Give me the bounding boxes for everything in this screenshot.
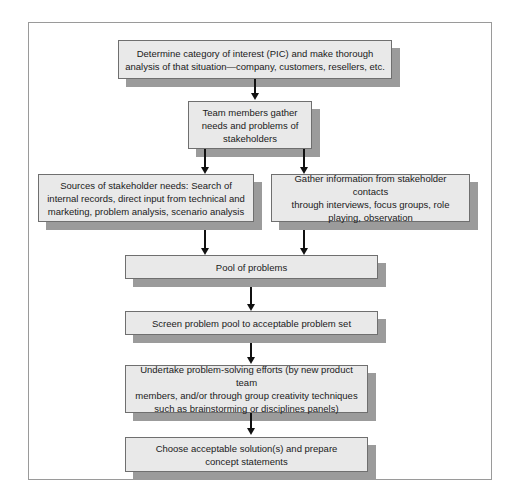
connector-screen-to-undertake-arrowhead bbox=[247, 357, 255, 364]
node-choose-solutions: Choose acceptable solution(s) and prepar… bbox=[125, 437, 368, 472]
node-undertake-problem-solving: Undertake problem-solving efforts (by ne… bbox=[125, 365, 368, 413]
node-label-choose-solutions: Choose acceptable solution(s) and prepar… bbox=[132, 442, 361, 468]
connector-pool-to-screen-arrowhead bbox=[247, 304, 255, 311]
node-gather-information: Gather information from stakeholder cont… bbox=[271, 174, 470, 222]
connector-gather-to-pool-arrowhead bbox=[300, 248, 308, 255]
node-label-team-members-gather: Team members gather needs and problems o… bbox=[195, 106, 305, 145]
node-determine-category: Determine category of interest (PIC) and… bbox=[118, 40, 392, 79]
node-label-sources-of-needs: Sources of stakeholder needs: Search of … bbox=[45, 179, 247, 218]
connector-determine-to-team-arrowhead bbox=[251, 93, 259, 100]
figure-root: Determine category of interest (PIC) and… bbox=[0, 0, 517, 501]
connector-gather-to-pool-line bbox=[303, 230, 305, 250]
connector-team-to-sources-line bbox=[204, 149, 206, 169]
node-label-screen-problem-pool: Screen problem pool to acceptable proble… bbox=[132, 317, 371, 330]
node-pool-of-problems: Pool of problems bbox=[125, 255, 378, 279]
connector-team-to-sources-arrowhead bbox=[201, 167, 209, 174]
connector-team-to-gather-line bbox=[303, 149, 305, 169]
connector-sources-to-pool-arrowhead bbox=[201, 248, 209, 255]
node-label-undertake-problem-solving: Undertake problem-solving efforts (by ne… bbox=[132, 363, 361, 415]
connector-undertake-to-choose-arrowhead bbox=[247, 428, 255, 435]
node-label-pool-of-problems: Pool of problems bbox=[132, 261, 371, 274]
node-team-members-gather: Team members gather needs and problems o… bbox=[188, 101, 312, 149]
connector-sources-to-pool-line bbox=[204, 230, 206, 250]
node-label-determine-category: Determine category of interest (PIC) and… bbox=[125, 47, 385, 73]
node-sources-of-needs: Sources of stakeholder needs: Search of … bbox=[38, 174, 254, 222]
node-screen-problem-pool: Screen problem pool to acceptable proble… bbox=[125, 311, 378, 335]
flowchart-canvas: Determine category of interest (PIC) and… bbox=[0, 0, 517, 501]
node-label-gather-information: Gather information from stakeholder cont… bbox=[278, 172, 463, 224]
connector-team-to-gather-arrowhead bbox=[300, 167, 308, 174]
